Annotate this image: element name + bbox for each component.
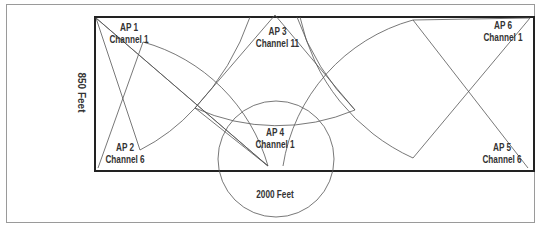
height-dimension-label: 850 Feet — [76, 72, 87, 112]
ap1-label: AP 1Channel 1 — [109, 22, 150, 46]
ap2-label: AP 2Channel 6 — [105, 142, 146, 166]
building-outline — [95, 17, 534, 171]
width-dimension-label: 2000 Feet — [250, 189, 299, 201]
ap4-label: AP 4Channel 1 — [255, 127, 296, 151]
ap5-label: AP 5Channel 6 — [482, 142, 523, 166]
ap6-label: AP 6Channel 1 — [483, 20, 524, 44]
ap3-label: AP 3Channel 11 — [255, 26, 300, 50]
